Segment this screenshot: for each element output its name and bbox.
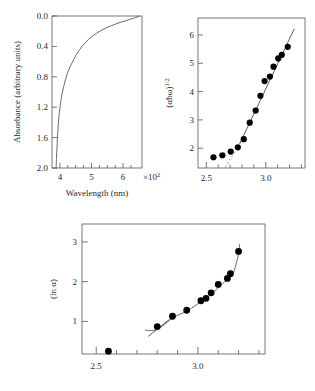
y-axis-ticks (52, 16, 57, 168)
svg-text:2: 2 (73, 277, 78, 287)
svg-text:2.5: 2.5 (201, 173, 213, 183)
svg-text:2.5: 2.5 (91, 361, 103, 371)
svg-text:1: 1 (73, 316, 78, 326)
svg-text:0.8: 0.8 (37, 72, 49, 82)
svg-text:3: 3 (190, 115, 195, 125)
tauc-plot-svg: 2.53.0 23456 (αħω)1/2 (160, 0, 315, 200)
y-axis-title: (ln α) (48, 279, 58, 299)
urbach-plot-svg: 2.53.0 123 (ln α) (30, 198, 290, 391)
y-axis-ticks (82, 242, 88, 322)
y-axis-ticks (198, 35, 203, 148)
svg-text:2.0: 2.0 (37, 163, 49, 173)
x-axis-title: Wavelength (nm) (66, 188, 129, 198)
tauc-plot-panel: 2.53.0 23456 (αħω)1/2 (160, 0, 315, 200)
svg-text:1.6: 1.6 (37, 133, 49, 143)
plot-frame (82, 224, 265, 354)
svg-text:3.0: 3.0 (260, 173, 272, 183)
x-axis-tick-labels: 2.53.0 (201, 173, 272, 183)
x-axis-ticks (206, 162, 301, 168)
y-axis-tick-labels: 123 (73, 237, 78, 327)
x-axis-exponent-label: ×102 (143, 171, 160, 183)
x-axis-tick-labels: 2.53.0 (91, 361, 204, 371)
svg-text:0.0: 0.0 (37, 11, 49, 21)
data-points (210, 44, 291, 161)
y-axis-tick-labels: 23456 (190, 30, 195, 153)
fit-curve (145, 244, 240, 331)
urbach-plot-panel: 2.53.0 123 (ln α) (30, 198, 290, 391)
svg-text:2: 2 (190, 143, 195, 153)
absorbance-spectrum-panel: 456 0.00.40.81.21.62.0 ×102 Wavelength (… (0, 0, 160, 200)
svg-text:1.2: 1.2 (37, 102, 48, 112)
svg-text:6: 6 (121, 172, 126, 182)
svg-text:5: 5 (89, 172, 94, 182)
svg-text:6: 6 (190, 30, 195, 40)
plot-frame (52, 16, 142, 168)
x-axis-ticks (60, 163, 131, 168)
absorbance-curve (56, 16, 139, 168)
x-axis-ticks (96, 347, 259, 354)
svg-text:4: 4 (58, 172, 63, 182)
svg-text:4: 4 (190, 87, 195, 97)
svg-text:3.0: 3.0 (192, 361, 204, 371)
svg-text:0.4: 0.4 (37, 41, 49, 51)
y-axis-tick-labels: 0.00.40.81.21.62.0 (37, 11, 49, 173)
y-axis-title: Absorbance (arbitrary units) (12, 41, 22, 143)
y-axis-title: (αħω)1/2 (163, 78, 175, 107)
data-points (105, 248, 242, 355)
svg-text:5: 5 (190, 58, 195, 68)
svg-text:3: 3 (73, 237, 78, 247)
absorbance-spectrum-svg: 456 0.00.40.81.21.62.0 ×102 Wavelength (… (0, 0, 160, 200)
x-axis-tick-labels: 456 (58, 172, 126, 182)
